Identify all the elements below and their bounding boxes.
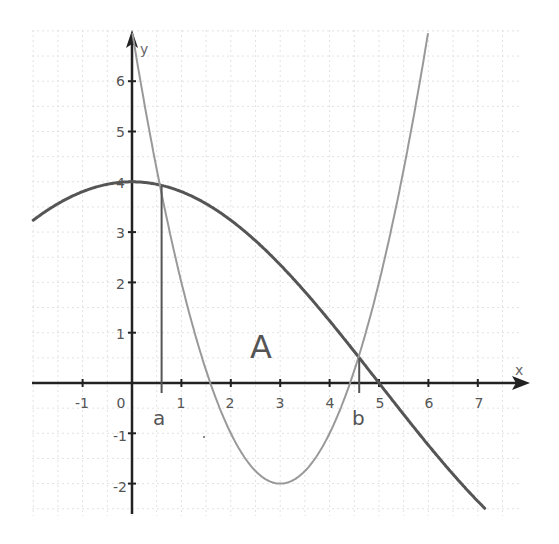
y-tick-label: 3 [116, 225, 125, 241]
y-tick-label: 5 [116, 124, 125, 140]
axes [32, 30, 530, 514]
grid [32, 30, 520, 516]
x-tick-label: 7 [475, 395, 484, 411]
y-tick-label: 6 [116, 73, 125, 89]
x-tick-label: 4 [326, 395, 335, 411]
region-a-label: A [250, 328, 272, 366]
y-tick-label: -2 [113, 479, 127, 495]
function-plot: -1 0 1 2 3 4 5 6 7 6 5 4 3 2 1 -1 -2 x y… [0, 0, 559, 544]
y-tick-label: 4 [116, 175, 125, 191]
y-tick-label: 1 [116, 326, 125, 342]
y-tick-label: -1 [113, 428, 127, 444]
x-tick-label: 5 [376, 395, 385, 411]
y-axis-label: y [140, 41, 148, 57]
y-tick-label: 2 [116, 276, 125, 292]
x-tick-label: 6 [425, 395, 434, 411]
point-a-label: a [153, 406, 165, 430]
stray-dot [203, 436, 205, 438]
point-b-label: b [352, 406, 365, 430]
curves [33, 34, 485, 508]
x-tick-label: 2 [226, 395, 235, 411]
x-tick-label: 0 [117, 395, 126, 411]
x-tick-label: 1 [177, 395, 186, 411]
x-tick-label: 3 [276, 395, 285, 411]
y-tick-labels: 6 5 4 3 2 1 -1 -2 [113, 73, 127, 495]
x-tick-label: -1 [75, 395, 89, 411]
x-axis-label: x [515, 362, 523, 378]
